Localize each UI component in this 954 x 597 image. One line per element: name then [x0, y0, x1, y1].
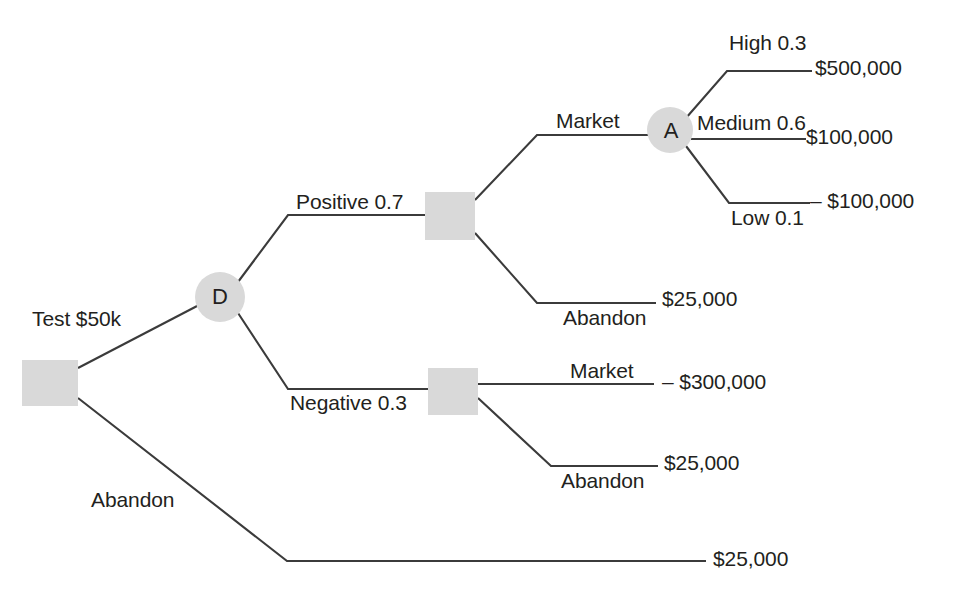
branch-label-high: High 0.3: [729, 32, 806, 53]
edge-negative: [238, 313, 428, 389]
branch-label-neg-abandon: Abandon: [561, 470, 644, 491]
payoff-neg-market: – $300,000: [662, 371, 766, 392]
node-a-label: A: [662, 120, 680, 142]
branch-label-negative: Negative 0.3: [290, 392, 407, 413]
branch-label-pos-abandon: Abandon: [563, 307, 646, 328]
node-d-label: D: [211, 286, 229, 308]
payoff-high: $500,000: [815, 57, 902, 78]
branch-label-pos-market: Market: [556, 110, 620, 131]
branch-label-medium: Medium 0.6: [697, 112, 806, 133]
branch-label-low: Low 0.1: [731, 207, 804, 228]
node-positive-decision-square[interactable]: [425, 192, 475, 240]
edge-positive: [238, 215, 425, 282]
payoff-low: – $100,000: [810, 190, 914, 211]
branch-label-test: Test $50k: [32, 308, 121, 329]
payoff-medium: $100,000: [806, 126, 893, 147]
decision-tree-diagram: D A Test $50k Abandon Positive 0.7 Negat…: [0, 0, 954, 597]
payoff-neg-abandon: $25,000: [664, 452, 739, 473]
payoff-pos-abandon: $25,000: [662, 288, 737, 309]
branch-label-neg-market: Market: [570, 360, 634, 381]
payoff-root-abandon: $25,000: [713, 548, 788, 569]
edge-pos-market: [475, 135, 649, 200]
node-root-decision-square[interactable]: [22, 360, 78, 406]
branch-label-root-abandon: Abandon: [91, 489, 174, 510]
node-negative-decision-square[interactable]: [428, 368, 478, 415]
edge-pos-abandon: [475, 233, 656, 303]
branch-label-positive: Positive 0.7: [296, 191, 403, 212]
edge-neg-abandon: [478, 398, 658, 466]
edge-low: [686, 146, 810, 203]
